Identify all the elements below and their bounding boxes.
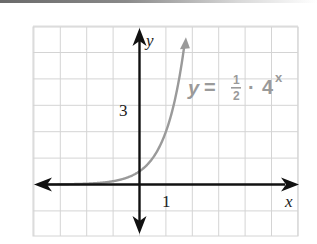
- equation-exponent: x: [275, 70, 283, 85]
- equation-base: 4: [262, 76, 274, 98]
- x-axis-label: x: [284, 192, 293, 211]
- equation-equals: =: [204, 76, 216, 98]
- equation-label: y = 1 2 · 4 x: [187, 70, 283, 103]
- y-axis-label: y: [144, 31, 154, 50]
- fraction-denominator: 2: [233, 89, 240, 103]
- exponential-curve: [39, 45, 184, 184]
- multiplication-dot: ·: [248, 76, 255, 98]
- y-tick-label-3: 3: [119, 101, 128, 120]
- fraction-numerator: 1: [233, 73, 240, 87]
- exponential-graph: y x 3 1 y = 1 2 · 4 x: [0, 0, 317, 244]
- curve-arrowhead: [180, 37, 190, 49]
- x-tick-label-1: 1: [162, 192, 171, 211]
- equation-lhs: y: [187, 77, 200, 99]
